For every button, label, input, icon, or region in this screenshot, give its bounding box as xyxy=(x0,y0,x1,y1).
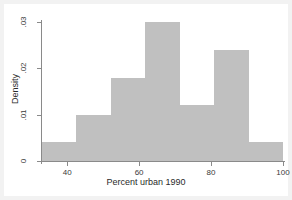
histogram-figure: 406080100 0.01.02.03 Density Percent urb… xyxy=(0,0,292,200)
histogram-bar xyxy=(145,22,179,161)
x-axis-line xyxy=(38,161,285,162)
x-tick-mark xyxy=(211,162,212,166)
y-tick-label: 0 xyxy=(19,149,29,173)
y-tick-mark xyxy=(37,115,41,116)
y-tick-label: .02 xyxy=(19,56,29,80)
histogram-bar xyxy=(76,115,110,161)
figure-canvas: 406080100 0.01.02.03 Density xyxy=(4,4,288,196)
y-axis-line xyxy=(41,20,42,164)
histogram-bars xyxy=(42,22,283,161)
y-tick-mark xyxy=(37,68,41,69)
y-tick-mark xyxy=(37,22,41,23)
y-tick-label: .03 xyxy=(19,10,29,34)
y-axis-title: Density xyxy=(10,59,20,119)
x-tick-mark xyxy=(283,162,284,166)
x-tick-mark xyxy=(67,162,68,166)
x-axis-title: Percent urban 1990 xyxy=(0,177,292,187)
y-tick-mark xyxy=(37,161,41,162)
x-tick-mark xyxy=(139,162,140,166)
histogram-bar xyxy=(42,142,76,161)
histogram-bar xyxy=(249,142,283,161)
histogram-bar xyxy=(111,78,145,161)
plot-area xyxy=(42,22,283,161)
histogram-bar xyxy=(214,50,248,161)
y-tick-label: .01 xyxy=(19,103,29,127)
histogram-bar xyxy=(180,105,214,161)
